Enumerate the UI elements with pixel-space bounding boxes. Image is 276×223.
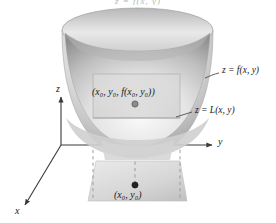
y-axis-label: y [218,137,222,147]
tangent-plane-equation-label: z = L(x, y) [195,106,235,116]
tangent-point-label: (x₀, y₀, f(x₀, y₀)) [92,87,155,97]
x-axis-label: x [15,206,19,216]
base-point-label: (x₀, y₀) [114,190,142,200]
tangent-plane-figure: z = f(x, y) [0,0,276,223]
surface-equation-label: z = f(x, y) [222,66,259,76]
tangent-point-dot [132,101,138,107]
x-axis [25,145,61,205]
z-axis-label: z [56,84,60,94]
base-point-dot [132,182,138,188]
